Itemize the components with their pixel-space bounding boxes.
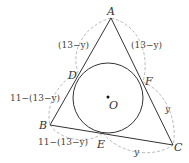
- segment-label-AD: (13−y): [58, 40, 89, 50]
- segment-label-EC: y: [133, 147, 140, 157]
- label-O: O: [109, 99, 118, 112]
- segment-label-BE: 11−(13−y): [38, 137, 88, 147]
- label-E: E: [96, 138, 105, 151]
- segment-label-FC: y: [164, 104, 171, 114]
- segment-label-AF: (13−y): [131, 40, 162, 50]
- segment-label-BD: 11−(13−y): [10, 93, 60, 103]
- label-A: A: [106, 5, 115, 18]
- label-C: C: [174, 141, 183, 154]
- label-B: B: [38, 119, 47, 132]
- incircle-diagram: A B C D E F O (13−y) (13−y) 11−(13−y) 11…: [0, 0, 189, 163]
- label-F: F: [144, 75, 153, 88]
- label-D: D: [67, 69, 77, 82]
